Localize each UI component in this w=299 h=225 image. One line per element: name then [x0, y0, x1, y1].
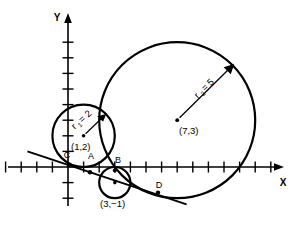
- circle-2-center-label: (7,3): [179, 125, 199, 136]
- point-a-label: A: [88, 151, 94, 161]
- point-a-dot: [88, 170, 92, 174]
- point-c-dot: [67, 163, 71, 167]
- y-axis-label: Y: [54, 12, 61, 23]
- point-d-label: D: [156, 180, 163, 190]
- point-d-dot: [156, 190, 160, 194]
- circle-3-center-label: (3,−1): [100, 198, 125, 209]
- point-c-label: C: [64, 150, 71, 160]
- circle-1-center-dot: [82, 134, 86, 138]
- point-b-dot: [113, 169, 117, 173]
- geometry-figure: X Y r 2 = 5 (7,3) r 1 = 2 (1,2) (3,−1) C…: [0, 0, 299, 225]
- circle-2-center-dot: [175, 118, 179, 122]
- circle-1-center-label: (1,2): [71, 141, 91, 152]
- figure-canvas: X Y r 2 = 5 (7,3) r 1 = 2 (1,2) (3,−1) C…: [0, 0, 299, 225]
- point-b-label: B: [115, 155, 121, 165]
- x-axis-label: X: [280, 177, 287, 188]
